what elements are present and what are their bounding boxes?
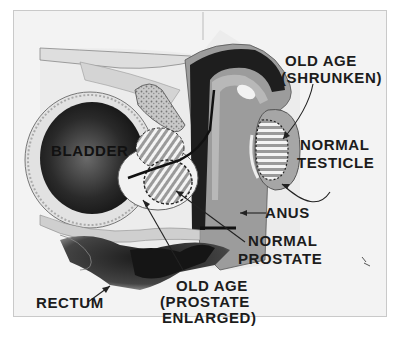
label-normal-prostate-line2: PROSTATE [238, 251, 322, 267]
label-old-age-prostate-line3: ENLARGED) [162, 310, 257, 326]
label-old-age-shrunken-line2: (SHRUNKEN) [281, 70, 382, 86]
label-anus: ANUS [265, 205, 310, 221]
label-normal-prostate-line1: NORMAL [248, 233, 317, 249]
label-bladder: BLADDER [51, 143, 129, 159]
label-normal-testicle-line2: TESTICLE [297, 155, 374, 171]
label-old-age-prostate-line2: (PROSTATE [160, 294, 250, 310]
label-old-age-prostate-line1: OLD AGE [176, 278, 248, 294]
label-old-age-shrunken-line1: OLD AGE [285, 53, 357, 69]
label-normal-testicle-line1: NORMAL [300, 137, 369, 153]
label-rectum: RECTUM [36, 295, 104, 311]
